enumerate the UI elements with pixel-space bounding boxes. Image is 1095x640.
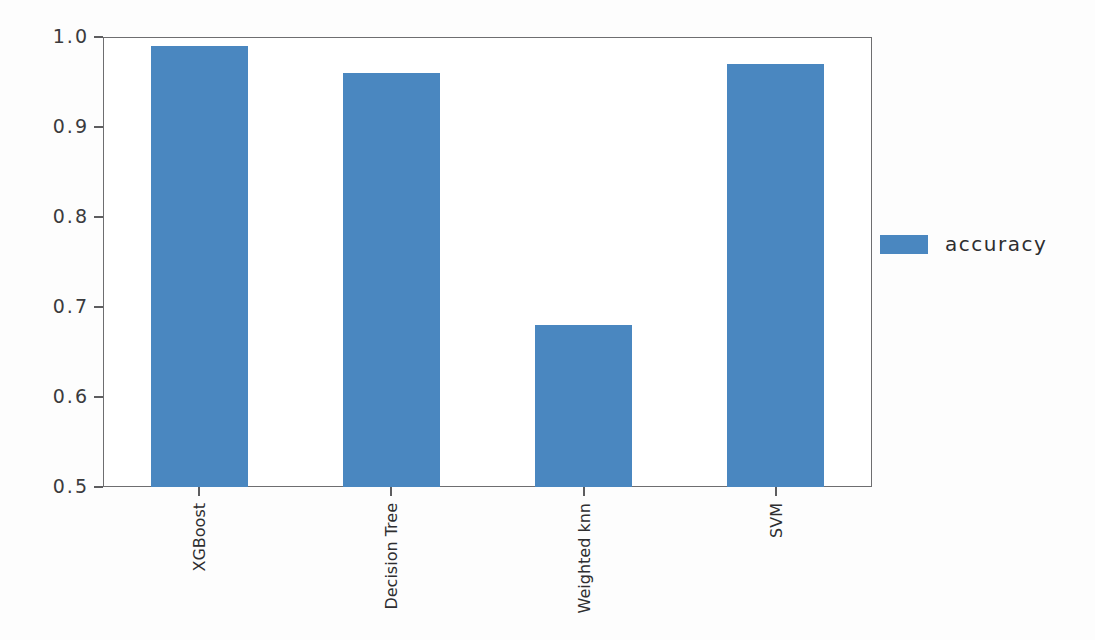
y-tick-label: 0.7 (53, 295, 89, 317)
x-tick-label: Decision Tree (382, 503, 401, 610)
bar-svm (727, 64, 824, 487)
legend-label-accuracy: accuracy (945, 232, 1047, 256)
x-tick-mark (583, 487, 585, 496)
x-tick-label: XGBoost (190, 503, 209, 572)
bar-xgboost (151, 46, 248, 487)
y-tick-label: 0.8 (53, 205, 89, 227)
legend-swatch-accuracy (880, 235, 928, 254)
bar-weighted-knn (535, 325, 632, 487)
x-tick-mark (775, 487, 777, 496)
y-tick-label: 0.9 (53, 115, 89, 137)
y-tick-mark (94, 36, 103, 38)
y-tick-mark (94, 486, 103, 488)
y-tick-label: 0.6 (53, 385, 89, 407)
x-tick-label: SVM (766, 503, 785, 538)
y-tick-label: 0.5 (53, 475, 89, 497)
y-tick-mark (94, 216, 103, 218)
bars-layer (104, 38, 871, 487)
y-tick-mark (94, 306, 103, 308)
y-tick-mark (94, 396, 103, 398)
y-tick-label: 1.0 (53, 25, 89, 47)
y-tick-mark (94, 126, 103, 128)
chart-page: 0.50.60.70.80.91.0 XGBoostDecision TreeW… (0, 0, 1095, 640)
bar-decision-tree (343, 73, 440, 487)
x-tick-mark (198, 487, 200, 496)
x-tick-mark (390, 487, 392, 496)
x-tick-label: Weighted knn (574, 503, 593, 613)
chart-legend: accuracy (880, 232, 1047, 256)
